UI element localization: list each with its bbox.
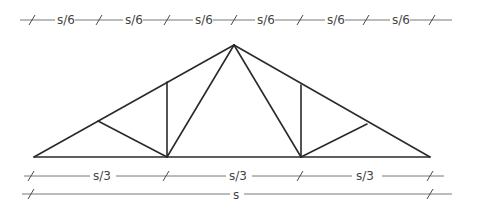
label-s3-3: s/3 [356,169,374,183]
dimension-row-thirds: s/3 s/3 s/3 [24,166,444,184]
label-s6-4: s/6 [257,13,275,27]
label-span-s: s [233,188,239,202]
label-s3-1: s/3 [93,169,111,183]
label-s6-1: s/6 [57,13,75,27]
truss-diagram: s/6 s/6 s/6 s/6 s/6 s/6 s/3 [0,0,478,209]
label-s6-3: s/6 [195,13,213,27]
top-chord-right [234,45,430,157]
web-left-diagonal-outer [98,121,167,157]
dimension-row-sixths: s/6 s/6 s/6 s/6 s/6 s/6 [20,11,452,27]
truss [34,45,430,157]
web-left-diagonal-inner [167,45,234,157]
label-s6-2: s/6 [125,13,143,27]
label-s3-2: s/3 [229,169,247,183]
label-s6-5: s/6 [327,13,345,27]
dimension-labels-sixths: s/6 s/6 s/6 s/6 s/6 s/6 [55,11,410,27]
label-s6-6: s/6 [392,13,410,27]
dimension-row-span: s [22,186,452,202]
web-right-diagonal-outer [301,124,367,157]
web-right-diagonal-inner [234,45,301,157]
